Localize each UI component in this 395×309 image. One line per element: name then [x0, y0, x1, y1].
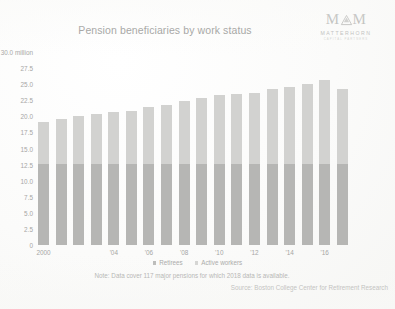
bar-segment-retirees	[319, 164, 330, 245]
x-axis-tick: '16	[321, 249, 329, 256]
bar-segment-active-workers	[284, 87, 295, 164]
plot-area: 30.0 million27.525.022.520.017.515.012.5…	[38, 52, 348, 245]
y-axis-tick: 15.0	[21, 145, 33, 152]
bar-segment-retirees	[179, 164, 190, 245]
bar-segment-retirees	[91, 164, 102, 245]
y-axis-tick: 30.0 million	[1, 49, 33, 56]
bar-segment-retirees	[302, 164, 313, 245]
chart-note: Note: Data cover 117 major pensions for …	[0, 272, 384, 279]
bar-column[interactable]	[126, 52, 137, 245]
y-axis-tick: 22.5	[21, 97, 33, 104]
x-axis-tick: '10	[215, 249, 223, 256]
bar-segment-retirees	[337, 164, 348, 245]
bar-column[interactable]	[302, 52, 313, 245]
bar-segment-active-workers	[91, 114, 102, 164]
x-axis-tick: '08	[180, 249, 188, 256]
bar-column[interactable]: '16	[319, 52, 330, 245]
bar-segment-retirees	[143, 164, 154, 245]
bar-segment-retirees	[56, 164, 67, 245]
bar-segment-active-workers	[249, 93, 260, 164]
bar-column[interactable]: '06	[143, 52, 154, 245]
bar-segment-active-workers	[302, 84, 313, 164]
bar-segment-retirees	[284, 164, 295, 245]
bar-column[interactable]	[267, 52, 278, 245]
bar-column[interactable]	[91, 52, 102, 245]
bar-column[interactable]	[196, 52, 207, 245]
bar-segment-retirees	[126, 164, 137, 245]
bar-group: 2000'04'06'08'10'12'14'16	[38, 52, 348, 245]
chart-legend: RetireesActive workers	[0, 259, 395, 266]
logo-tagline: CAPITAL PARTNERS	[309, 37, 383, 41]
bar-segment-active-workers	[196, 98, 207, 164]
bar-segment-retirees	[249, 164, 260, 245]
bar-column[interactable]: '14	[284, 52, 295, 245]
bar-segment-retirees	[73, 164, 84, 245]
y-axis-tick: 5.0	[24, 209, 33, 216]
bar-segment-retirees	[231, 164, 242, 245]
bar-segment-retirees	[267, 164, 278, 245]
y-axis-tick: 0	[29, 242, 33, 249]
bar-segment-active-workers	[214, 95, 225, 164]
bar-column[interactable]: '08	[179, 52, 190, 245]
bar-segment-active-workers	[179, 101, 190, 164]
logo-wordmark: MATTERHORN	[309, 30, 383, 36]
bar-segment-active-workers	[38, 122, 49, 164]
bar-segment-active-workers	[337, 89, 348, 164]
bar-column[interactable]: '04	[108, 52, 119, 245]
x-axis-tick: '14	[285, 249, 293, 256]
bar-segment-active-workers	[319, 80, 330, 164]
x-axis-tick: '04	[110, 249, 118, 256]
chart-page: Pension beneficiaries by work status MM …	[0, 0, 395, 309]
bar-column[interactable]	[231, 52, 242, 245]
y-axis-tick: 2.5	[24, 225, 33, 232]
bar-column[interactable]: '10	[214, 52, 225, 245]
bar-segment-active-workers	[126, 111, 137, 164]
bar-segment-active-workers	[108, 112, 119, 164]
bar-segment-retirees	[38, 164, 49, 245]
y-axis-tick: 10.0	[21, 177, 33, 184]
y-axis-tick: 20.0	[21, 113, 33, 120]
x-axis-tick: 2000	[36, 249, 50, 256]
logo-mark-icon: MM	[309, 12, 383, 27]
bar-column[interactable]	[161, 52, 172, 245]
bar-segment-active-workers	[73, 116, 84, 164]
bar-segment-active-workers	[267, 89, 278, 164]
x-axis-tick: '12	[250, 249, 258, 256]
bar-column[interactable]	[56, 52, 67, 245]
bar-column[interactable]: '12	[249, 52, 260, 245]
legend-item[interactable]: Active workers	[195, 259, 242, 266]
bar-segment-retirees	[214, 164, 225, 245]
bar-segment-active-workers	[231, 94, 242, 163]
y-axis-tick: 7.5	[24, 193, 33, 200]
y-axis-tick: 27.5	[21, 65, 33, 72]
bar-segment-active-workers	[56, 119, 67, 164]
chart-title: Pension beneficiaries by work status	[0, 24, 330, 36]
legend-swatch-icon	[153, 261, 157, 265]
bar-column[interactable]	[73, 52, 84, 245]
chart-source: Source: Boston College Center for Retire…	[0, 284, 388, 291]
y-axis-tick: 17.5	[21, 129, 33, 136]
y-axis-tick: 12.5	[21, 161, 33, 168]
legend-swatch-icon	[195, 261, 199, 265]
bar-segment-active-workers	[161, 105, 172, 164]
legend-label: Active workers	[201, 259, 242, 266]
matterhorn-logo: MM MATTERHORN CAPITAL PARTNERS	[309, 12, 383, 41]
bar-segment-retirees	[161, 164, 172, 245]
x-axis-tick: '06	[145, 249, 153, 256]
bar-segment-active-workers	[143, 107, 154, 164]
bar-segment-retirees	[108, 164, 119, 245]
bar-column[interactable]: 2000	[38, 52, 49, 245]
bar-segment-retirees	[196, 164, 207, 245]
bar-column[interactable]	[337, 52, 348, 245]
legend-item[interactable]: Retirees	[153, 259, 183, 266]
legend-label: Retirees	[159, 259, 182, 266]
y-axis-tick: 25.0	[21, 81, 33, 88]
